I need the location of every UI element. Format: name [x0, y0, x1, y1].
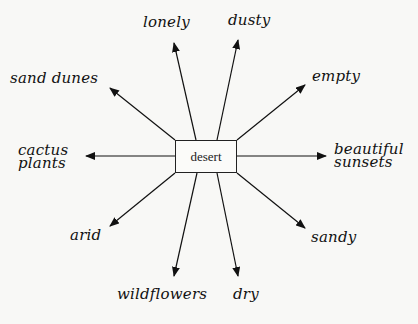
arrow-arid	[110, 173, 175, 226]
arrow-dry	[217, 173, 238, 276]
word-cactus-plants: cactus plants	[18, 144, 68, 170]
word-beautiful-sunsets: beautiful sunsets	[334, 143, 404, 169]
word-empty: empty	[312, 70, 360, 83]
center-label: desert	[190, 149, 221, 165]
arrow-lonely	[174, 43, 196, 140]
word-dry: dry	[233, 288, 259, 301]
word-web-diagram: desert lonely dusty sand dunes empty cac…	[0, 0, 418, 324]
arrow-empty	[237, 85, 305, 140]
arrow-sandy	[237, 173, 305, 228]
arrow-sand-dunes	[110, 88, 175, 140]
word-sandy: sandy	[311, 231, 356, 244]
arrow-dusty	[217, 40, 238, 140]
center-node: desert	[175, 140, 237, 173]
word-lonely: lonely	[143, 16, 190, 29]
word-cactus-line2: plants	[18, 157, 68, 170]
word-sand-dunes: sand dunes	[10, 72, 98, 85]
word-dusty: dusty	[228, 14, 270, 27]
word-wildflowers: wildflowers	[117, 288, 207, 301]
arrow-wildflowers	[174, 173, 197, 276]
word-arid: arid	[70, 229, 101, 242]
